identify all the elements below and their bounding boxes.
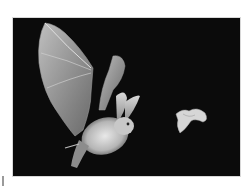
- moth: [176, 109, 207, 133]
- page-edge-mark: [2, 176, 4, 186]
- bat-moth-photo: [13, 18, 240, 176]
- bat: [39, 23, 140, 168]
